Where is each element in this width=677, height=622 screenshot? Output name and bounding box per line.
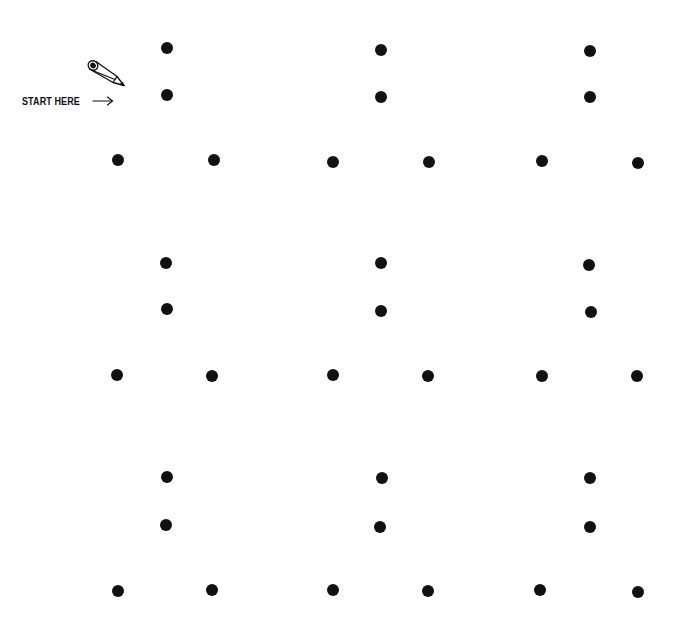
dot bbox=[375, 91, 387, 103]
dot bbox=[111, 369, 123, 381]
dot bbox=[584, 45, 596, 57]
dot bbox=[375, 44, 387, 56]
dot bbox=[375, 257, 387, 269]
dot bbox=[584, 472, 596, 484]
dot bbox=[631, 370, 643, 382]
dot bbox=[374, 521, 386, 533]
dot bbox=[206, 584, 218, 596]
dot bbox=[161, 471, 173, 483]
dot bbox=[632, 157, 644, 169]
dot-grid bbox=[0, 0, 677, 622]
dot bbox=[422, 370, 434, 382]
dot bbox=[208, 154, 220, 166]
dot bbox=[423, 156, 435, 168]
dot bbox=[327, 369, 339, 381]
dot bbox=[584, 91, 596, 103]
dot bbox=[112, 585, 124, 597]
puzzle-page: START HERE bbox=[0, 0, 677, 622]
dot bbox=[160, 519, 172, 531]
dot bbox=[327, 156, 339, 168]
dot bbox=[112, 154, 124, 166]
dot bbox=[161, 89, 173, 101]
dot bbox=[327, 584, 339, 596]
dot bbox=[160, 257, 172, 269]
dot bbox=[422, 585, 434, 597]
dot bbox=[536, 155, 548, 167]
dot bbox=[584, 521, 596, 533]
dot bbox=[161, 303, 173, 315]
dot bbox=[632, 586, 644, 598]
dot bbox=[583, 259, 595, 271]
dot bbox=[206, 370, 218, 382]
dot bbox=[375, 305, 387, 317]
dot bbox=[161, 42, 173, 54]
dot bbox=[585, 306, 597, 318]
dot bbox=[534, 584, 546, 596]
dot bbox=[376, 472, 388, 484]
dot bbox=[536, 370, 548, 382]
